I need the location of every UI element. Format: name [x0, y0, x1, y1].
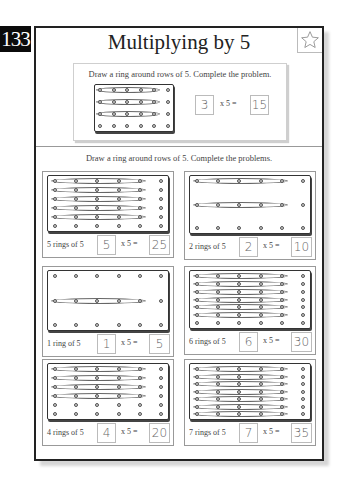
multiplicand-box[interactable]: 7 [239, 423, 258, 443]
peg-dot [53, 403, 57, 407]
peg-dot [216, 282, 220, 286]
peg-dot [53, 215, 57, 219]
peg-dot [166, 124, 170, 128]
peg-dot [259, 375, 263, 379]
peg-dot [280, 405, 284, 409]
peg-dot [53, 206, 57, 210]
peg-dot [159, 412, 163, 416]
peg-dot [53, 197, 57, 201]
peg-dot [138, 274, 142, 278]
peg-dot [139, 88, 143, 92]
peg-dot [259, 290, 263, 294]
product-box[interactable]: 35 [291, 423, 312, 443]
peg-dot [159, 274, 163, 278]
star-box [297, 28, 322, 53]
peg-dot [280, 226, 284, 230]
peg-dot [259, 226, 263, 230]
peg-dot [53, 412, 57, 416]
multiplicand-box[interactable]: 6 [239, 332, 258, 352]
multiplicand-box[interactable]: 5 [97, 235, 116, 255]
peg-dot [216, 203, 220, 207]
peg-dot [237, 390, 241, 394]
peg-dot [195, 397, 199, 401]
peg-dot [195, 321, 199, 325]
multiplicand-box[interactable]: 3 [195, 95, 214, 115]
peg-dot [138, 206, 142, 210]
dot-board [47, 363, 169, 420]
peg-dot [138, 367, 142, 371]
peg-dot [159, 385, 163, 389]
peg-dot [159, 215, 163, 219]
peg-dot [259, 282, 263, 286]
peg-dot [301, 375, 305, 379]
times-sign: x 5 = [263, 427, 280, 436]
multiplicand-box[interactable]: 4 [97, 423, 116, 443]
rings-label: 4 rings of 5 [47, 428, 84, 437]
rings-label: 1 ring of 5 [47, 339, 81, 348]
multiplicand-box[interactable]: 1 [97, 334, 116, 354]
product-box[interactable]: 10 [291, 237, 312, 257]
product-box[interactable]: 5 [149, 334, 170, 354]
peg-dot [301, 282, 305, 286]
product-box[interactable]: 20 [149, 423, 170, 443]
problem-panel: 6 rings of 56x 5 =30 [184, 266, 316, 355]
peg-dot [74, 403, 78, 407]
peg-dot [195, 305, 199, 309]
peg-dot [195, 282, 199, 286]
peg-dot [280, 179, 284, 183]
peg-dot [117, 403, 121, 407]
peg-dot [152, 124, 156, 128]
problem-panel: 7 rings of 57x 5 =35 [184, 359, 316, 446]
peg-dot [259, 298, 263, 302]
peg-dot [138, 412, 142, 416]
peg-dot [280, 382, 284, 386]
peg-dot [138, 224, 142, 228]
peg-dot [195, 298, 199, 302]
peg-dot [280, 313, 284, 317]
times-sign: x 5 = [263, 336, 280, 345]
peg-dot [216, 375, 220, 379]
peg-dot [280, 298, 284, 302]
peg-dot [195, 290, 199, 294]
peg-dot [216, 290, 220, 294]
times-sign: x 5 = [220, 99, 237, 108]
peg-dot [98, 88, 102, 92]
equation-row: 4 rings of 54x 5 =20 [43, 423, 173, 443]
rings-label: 7 rings of 5 [189, 428, 226, 437]
peg-dot [301, 390, 305, 394]
peg-dot [53, 376, 57, 380]
peg-dot [280, 305, 284, 309]
peg-dot [53, 394, 57, 398]
peg-dot [195, 367, 199, 371]
star-icon [300, 30, 320, 50]
peg-dot [259, 203, 263, 207]
multiplicand-box[interactable]: 2 [239, 237, 258, 257]
peg-dot [301, 382, 305, 386]
peg-dot [259, 305, 263, 309]
peg-dot [237, 298, 241, 302]
peg-dot [237, 226, 241, 230]
page-number: 133 [0, 26, 31, 52]
peg-dot [166, 88, 170, 92]
product-box[interactable]: 25 [149, 235, 170, 255]
peg-dot [259, 382, 263, 386]
peg-dot [117, 323, 121, 327]
equation-row: 5 rings of 55x 5 =25 [43, 235, 173, 255]
problem-panel: 2 rings of 52x 5 =10 [184, 171, 316, 260]
product-box[interactable]: 30 [291, 332, 312, 352]
dot-board [47, 175, 169, 232]
peg-dot [280, 367, 284, 371]
peg-dot [237, 321, 241, 325]
equation-row: 2 rings of 52x 5 =10 [185, 237, 315, 257]
peg-dot [195, 412, 199, 416]
peg-dot [139, 124, 143, 128]
product-box[interactable]: 15 [250, 95, 269, 115]
peg-dot [159, 224, 163, 228]
peg-dot [74, 274, 78, 278]
times-sign: x 5 = [121, 239, 138, 248]
peg-dot [74, 323, 78, 327]
peg-dot [117, 376, 121, 380]
peg-dot [159, 403, 163, 407]
peg-dot [301, 412, 305, 416]
peg-dot [301, 305, 305, 309]
